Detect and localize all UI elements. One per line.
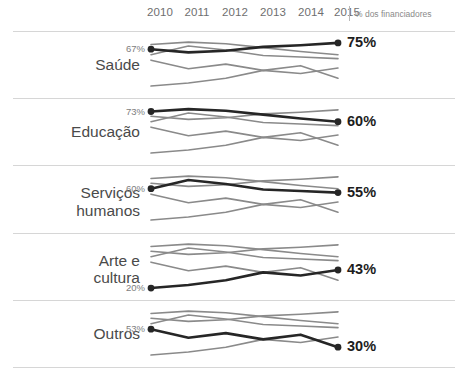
series-line-muted bbox=[151, 195, 338, 213]
year-tick-2010: 2010 bbox=[143, 6, 177, 18]
panel-educacao: Educação73%60% bbox=[0, 98, 472, 165]
series-end-dot bbox=[335, 266, 342, 273]
series-end-dot bbox=[335, 344, 342, 351]
series-start-dot bbox=[148, 284, 155, 291]
series-start-dot bbox=[148, 326, 155, 333]
panel-label-line: Saúde bbox=[18, 56, 140, 73]
panel-saude: Saúde67%75% bbox=[0, 31, 472, 98]
series-line-muted bbox=[151, 127, 338, 145]
start-value-servicos-humanos: 60% bbox=[105, 183, 145, 194]
panel-plot-outros bbox=[140, 300, 360, 367]
end-value-servicos-humanos: 55% bbox=[347, 184, 376, 200]
panel-label-saude: Saúde bbox=[18, 56, 140, 73]
series-line-muted bbox=[151, 135, 338, 153]
year-tick-2014: 2014 bbox=[294, 6, 328, 18]
legend-divider bbox=[349, 6, 350, 21]
year-tick-2012: 2012 bbox=[218, 6, 252, 18]
panel-servicos-humanos: Serviçoshumanos60%55% bbox=[0, 165, 472, 232]
year-tick-2011: 2011 bbox=[180, 6, 214, 18]
series-end-dot bbox=[335, 190, 342, 197]
panel-separator-bottom bbox=[13, 367, 455, 368]
series-line-highlight bbox=[151, 270, 338, 288]
panel-arte-e-cultura: Arte ecultura20%43% bbox=[0, 233, 472, 300]
series-line-muted bbox=[151, 202, 338, 220]
series-line-muted bbox=[151, 337, 338, 355]
series-line-muted bbox=[151, 68, 338, 86]
small-multiples-line-chart: 2010 2011 2012 2013 2014 2015 % dos fina… bbox=[0, 0, 472, 374]
legend-note: % dos financiadores bbox=[355, 9, 432, 19]
year-tick-2013: 2013 bbox=[256, 6, 290, 18]
panel-outros: Outros53%30% bbox=[0, 300, 472, 367]
series-end-dot bbox=[335, 118, 342, 125]
series-start-dot bbox=[148, 108, 155, 115]
start-value-outros: 53% bbox=[105, 323, 145, 334]
year-axis-header: 2010 2011 2012 2013 2014 2015 % dos fina… bbox=[0, 0, 472, 31]
start-value-saude: 67% bbox=[105, 43, 145, 54]
end-value-saude: 75% bbox=[347, 34, 376, 50]
panel-plot-servicos-humanos bbox=[140, 165, 360, 232]
panel-plot-saude bbox=[140, 31, 360, 98]
start-value-educacao: 73% bbox=[105, 106, 145, 117]
panel-label-educacao: Educação bbox=[18, 123, 140, 140]
series-end-dot bbox=[335, 40, 342, 47]
end-value-outros: 30% bbox=[347, 338, 376, 354]
panel-label-line: Arte e bbox=[18, 252, 140, 269]
series-line-muted bbox=[151, 60, 338, 78]
panel-label-line: humanos bbox=[18, 202, 140, 219]
series-line-highlight bbox=[151, 329, 338, 347]
start-value-arte-e-cultura: 20% bbox=[105, 282, 145, 293]
end-value-arte-e-cultura: 43% bbox=[347, 261, 376, 277]
panel-plot-arte-e-cultura bbox=[140, 233, 360, 300]
series-start-dot bbox=[148, 46, 155, 53]
end-value-educacao: 60% bbox=[347, 113, 376, 129]
panel-plot-educacao bbox=[140, 98, 360, 165]
series-start-dot bbox=[148, 186, 155, 193]
panel-label-line: Educação bbox=[18, 123, 140, 140]
